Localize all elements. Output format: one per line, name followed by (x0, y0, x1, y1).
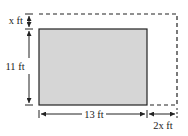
label-2x-ft: 2x ft (153, 120, 173, 131)
label-13-ft: 13 ft (84, 109, 104, 120)
dimension-11-ft (25, 31, 33, 105)
label-x-ft: x ft (9, 15, 23, 26)
original-rectangle (39, 29, 147, 105)
dimension-2x-ft (149, 108, 177, 118)
diagram-canvas: x ft 11 ft 13 ft 2x ft (0, 0, 188, 136)
dimension-x-ft (25, 14, 33, 29)
label-11-ft: 11 ft (5, 61, 24, 72)
